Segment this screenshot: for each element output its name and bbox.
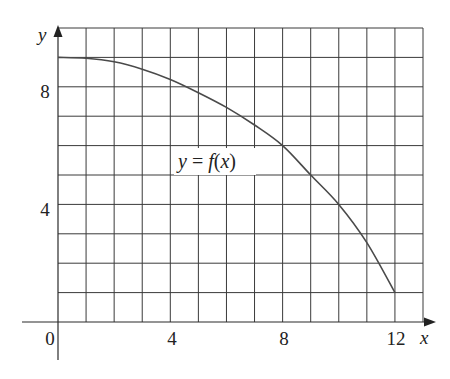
- x-tick-label-12: 12: [387, 328, 406, 349]
- function-label: y = f(x): [176, 150, 236, 173]
- y-tick-label-8: 8: [40, 81, 50, 102]
- chart-canvas: 0 4 8 12 x 4 8 y y = f(x): [0, 0, 450, 379]
- function-label-close: ): [229, 150, 236, 173]
- function-label-arg: x: [219, 150, 229, 172]
- y-axis-label: y: [36, 24, 47, 45]
- function-label-var: y: [176, 150, 187, 173]
- y-axis-arrow-icon: [54, 25, 63, 37]
- x-tick-label-8: 8: [279, 328, 289, 349]
- x-tick-label-4: 4: [167, 328, 177, 349]
- x-axis-arrow-icon: [424, 318, 436, 327]
- function-label-eq: =: [187, 150, 208, 172]
- origin-label: 0: [45, 328, 55, 349]
- y-tick-label-4: 4: [40, 199, 50, 220]
- x-axis-label: x: [419, 327, 429, 348]
